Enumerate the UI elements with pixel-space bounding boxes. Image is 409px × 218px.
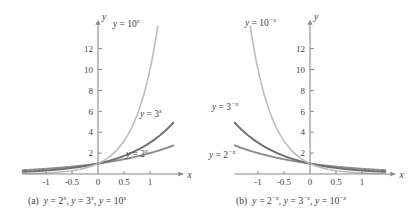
curve-b-base-10 [250, 26, 385, 173]
panel-b: -1-0.500.5124681012xyy = 2−xy = 3−xy = 1… [208, 12, 404, 187]
x-tick-label-a-3: 0.5 [118, 177, 130, 187]
curve-label-b-base-3: y = 3−x [211, 100, 238, 112]
x-tick-label-b-0: -1 [254, 177, 262, 187]
y-tick-label-a-5: 12 [84, 44, 93, 54]
y-tick-label-b-1: 4 [301, 127, 306, 137]
x-axis-label-a: x [186, 170, 192, 180]
panel-a: -1-0.500.5124681012xyy = 2xy = 3xy = 10x [23, 12, 193, 187]
x-axis-arrow-a [178, 171, 183, 176]
y-tick-label-a-3: 8 [89, 86, 94, 96]
panel-b-caption-text: (b) y = 2−x, y = 3−x, y = 10−x [236, 196, 346, 206]
y-tick-label-b-4: 10 [296, 65, 306, 75]
y-axis-arrow-a [95, 20, 100, 25]
x-tick-label-a-2: 0 [96, 177, 101, 187]
curve-label-b-base-10: y = 10−x [244, 16, 276, 28]
curve-label-b-base-2: y = 2−x [208, 148, 235, 160]
y-tick-label-b-2: 6 [301, 107, 306, 117]
exponential-functions-figure: -1-0.500.5124681012xyy = 2xy = 3xy = 10x… [0, 0, 409, 218]
x-tick-label-b-4: 1 [360, 177, 365, 187]
curve-label-a-base-3: y = 3x [139, 107, 162, 119]
y-axis-label-a: y [101, 12, 107, 22]
figure-canvas: -1-0.500.5124681012xyy = 2xy = 3xy = 10x… [0, 0, 409, 218]
x-axis-arrow-b [390, 171, 395, 176]
y-axis-arrow-b [307, 20, 312, 25]
curve-label-a-base-10: y = 10x [112, 17, 140, 29]
panel-b-caption: (b) y = 2−x, y = 3−x, y = 10−x [236, 196, 346, 206]
x-tick-label-a-0: -1 [42, 177, 50, 187]
panel-a-caption: (a) y = 2x, y = 3x, y = 10x [28, 196, 126, 206]
y-tick-label-b-0: 2 [301, 148, 306, 158]
y-tick-label-a-1: 4 [89, 127, 94, 137]
y-tick-label-a-0: 2 [89, 148, 94, 158]
curve-label-a-base-2: y = 2x [125, 147, 148, 159]
y-tick-label-a-2: 6 [89, 107, 94, 117]
y-tick-label-b-5: 12 [296, 44, 305, 54]
y-tick-label-b-3: 8 [301, 86, 306, 96]
x-tick-label-a-1: -0.5 [65, 177, 80, 187]
x-tick-label-a-4: 1 [148, 177, 153, 187]
y-tick-label-a-4: 10 [84, 65, 94, 75]
y-axis-label-b: y [313, 12, 319, 22]
x-tick-label-b-2: 0 [308, 177, 313, 187]
x-axis-label-b: x [398, 170, 404, 180]
x-tick-label-b-1: -0.5 [277, 177, 292, 187]
x-tick-label-b-3: 0.5 [330, 177, 342, 187]
panel-a-caption-text: (a) y = 2x, y = 3x, y = 10x [28, 196, 126, 206]
